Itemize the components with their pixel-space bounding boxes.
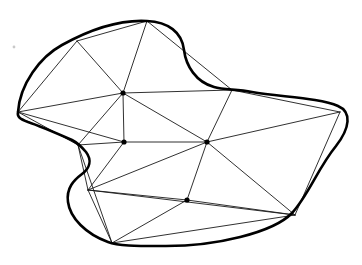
mesh-node-hub-left-mid — [121, 139, 126, 144]
paper-speck-layer — [13, 46, 16, 49]
geometry-diagram-svg — [0, 0, 362, 265]
mesh-node-hub-lower — [184, 197, 189, 202]
mesh-node-hub-upper — [120, 90, 125, 95]
paper-speck — [13, 46, 16, 49]
mesh-node-hub-right-mid — [204, 139, 209, 144]
figure-canvas — [0, 0, 362, 265]
